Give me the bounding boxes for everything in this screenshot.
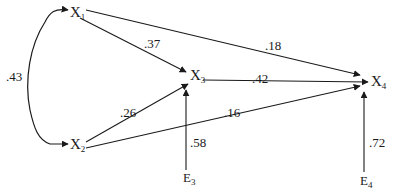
- node-e3: E3: [183, 170, 196, 187]
- path-x1-x3: [80, 18, 186, 72]
- correlation-curve-x1-x2: [28, 10, 68, 145]
- label-x1-x4: .18: [265, 38, 281, 53]
- node-x1: X1: [70, 4, 85, 22]
- path-x2-x3: [86, 84, 188, 142]
- path-x3-x4: [203, 80, 368, 82]
- label-x1-x2: .43: [6, 69, 22, 84]
- label-x2-x4: .16: [224, 105, 241, 120]
- label-e4-x4: .72: [369, 135, 385, 150]
- node-e4: E4: [360, 173, 373, 190]
- label-x1-x3: .37: [144, 36, 161, 51]
- label-x3-x4: .42: [252, 71, 268, 86]
- node-x4: X4: [371, 73, 387, 91]
- label-e3-x3: .58: [190, 135, 206, 150]
- node-x3: X3: [190, 67, 206, 85]
- label-x2-x3: .26: [120, 105, 137, 120]
- path-diagram: X1 X2 X3 X4 E3 E4 .43 .37 .18 .42 .26 .1…: [0, 0, 394, 192]
- node-x2: X2: [70, 136, 85, 154]
